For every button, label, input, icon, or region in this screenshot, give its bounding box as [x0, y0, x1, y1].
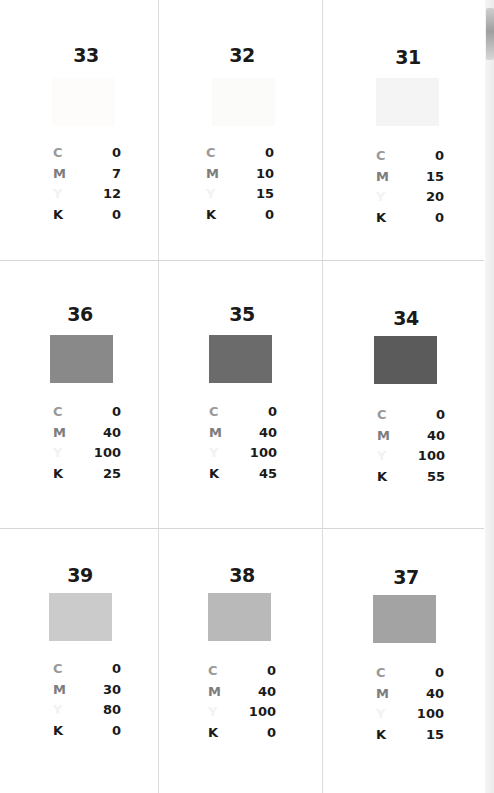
magenta-label: M: [376, 684, 389, 705]
swatch-card-33: 33 C0 M7 Y12 K0: [2, 0, 162, 260]
yellow-value: 80: [103, 700, 121, 721]
swatch-card-38: 38 C0 M40 Y100 K0: [162, 529, 322, 793]
black-label: K: [377, 467, 387, 488]
yellow-value: 100: [250, 443, 277, 464]
yellow-value: 20: [426, 187, 444, 208]
black-value: 0: [112, 205, 121, 226]
black-label: K: [53, 464, 63, 485]
cyan-value: 0: [436, 405, 445, 426]
swatch-card-35: 35 C0 M40 Y100 K45: [162, 261, 322, 528]
magenta-label: M: [209, 423, 222, 444]
swatch-number: 34: [326, 307, 486, 329]
cyan-label: C: [206, 143, 216, 164]
color-swatch: [376, 78, 439, 126]
cmyk-values: C0 M15 Y20 K0: [376, 146, 444, 228]
black-label: K: [376, 725, 386, 746]
yellow-label: Y: [53, 443, 62, 464]
color-swatch: [52, 78, 115, 126]
cyan-value: 0: [268, 402, 277, 423]
magenta-value: 40: [259, 423, 277, 444]
cyan-label: C: [208, 661, 218, 682]
cmyk-values: C0 M40 Y100 K55: [377, 405, 445, 487]
magenta-label: M: [206, 164, 219, 185]
magenta-value: 7: [112, 164, 121, 185]
black-label: K: [206, 205, 216, 226]
cmyk-values: C0 M40 Y100 K45: [209, 402, 277, 484]
black-label: K: [53, 205, 63, 226]
yellow-value: 100: [249, 702, 276, 723]
color-swatch: [209, 335, 272, 383]
yellow-label: Y: [377, 446, 386, 467]
yellow-value: 100: [94, 443, 121, 464]
cmyk-values: C0 M40 Y100 K25: [53, 402, 121, 484]
swatch-number: 32: [162, 44, 322, 66]
yellow-label: Y: [53, 184, 62, 205]
cyan-label: C: [209, 402, 219, 423]
black-value: 0: [265, 205, 274, 226]
cmyk-values: C0 M30 Y80 K0: [53, 659, 121, 741]
black-label: K: [53, 721, 63, 742]
swatch-number: 33: [6, 44, 166, 66]
cyan-value: 0: [267, 661, 276, 682]
magenta-value: 10: [256, 164, 274, 185]
yellow-label: Y: [208, 702, 217, 723]
cyan-label: C: [53, 402, 63, 423]
magenta-label: M: [376, 167, 389, 188]
magenta-label: M: [53, 423, 66, 444]
yellow-value: 100: [418, 446, 445, 467]
color-swatch: [50, 335, 113, 383]
magenta-value: 30: [103, 680, 121, 701]
black-value: 45: [259, 464, 277, 485]
cmyk-values: C0 M10 Y15 K0: [206, 143, 274, 225]
swatch-number: 35: [162, 303, 322, 325]
cyan-label: C: [53, 143, 63, 164]
yellow-label: Y: [206, 184, 215, 205]
cyan-value: 0: [112, 659, 121, 680]
swatch-number: 39: [0, 564, 160, 586]
color-swatch: [373, 595, 436, 643]
black-value: 0: [435, 208, 444, 229]
black-label: K: [208, 723, 218, 744]
swatch-grid: 33 C0 M7 Y12 K0 32 C0 M10 Y15 K0 31 C0 M…: [0, 0, 494, 793]
swatch-card-34: 34 C0 M40 Y100 K55: [326, 261, 486, 528]
magenta-value: 40: [258, 682, 276, 703]
cmyk-values: C0 M40 Y100 K15: [376, 663, 444, 745]
yellow-label: Y: [209, 443, 218, 464]
cyan-label: C: [376, 663, 386, 684]
black-label: K: [209, 464, 219, 485]
swatch-number: 31: [328, 46, 488, 68]
yellow-value: 100: [417, 704, 444, 725]
magenta-label: M: [208, 682, 221, 703]
yellow-label: Y: [376, 187, 385, 208]
swatch-card-32: 32 C0 M10 Y15 K0: [162, 0, 322, 260]
cyan-label: C: [376, 146, 386, 167]
cyan-value: 0: [435, 146, 444, 167]
black-value: 25: [103, 464, 121, 485]
magenta-label: M: [377, 426, 390, 447]
cyan-label: C: [377, 405, 387, 426]
cmyk-values: C0 M40 Y100 K0: [208, 661, 276, 743]
column-divider: [322, 0, 323, 793]
black-value: 15: [426, 725, 444, 746]
color-swatch: [49, 593, 112, 641]
yellow-label: Y: [376, 704, 385, 725]
swatch-card-37: 37 C0 M40 Y100 K15: [326, 529, 486, 793]
swatch-number: 36: [0, 303, 160, 325]
yellow-value: 12: [103, 184, 121, 205]
swatch-card-39: 39 C0 M30 Y80 K0: [2, 529, 162, 793]
black-value: 0: [112, 721, 121, 742]
cyan-value: 0: [112, 402, 121, 423]
cyan-value: 0: [112, 143, 121, 164]
cyan-label: C: [53, 659, 63, 680]
yellow-value: 15: [256, 184, 274, 205]
color-swatch: [212, 78, 275, 126]
magenta-label: M: [53, 164, 66, 185]
page-edge: [485, 0, 494, 793]
color-swatch: [374, 336, 437, 384]
magenta-value: 40: [426, 684, 444, 705]
swatch-number: 37: [326, 566, 486, 588]
color-swatch: [208, 593, 271, 641]
swatch-card-31: 31 C0 M15 Y20 K0: [326, 0, 486, 260]
cmyk-values: C0 M7 Y12 K0: [53, 143, 121, 225]
page-edge-tab: [486, 8, 494, 60]
